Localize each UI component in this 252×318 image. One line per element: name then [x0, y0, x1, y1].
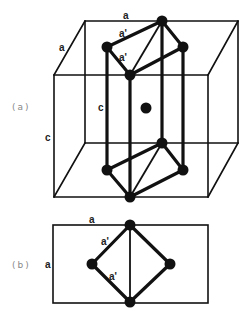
- atom-bottom-front: [125, 192, 136, 203]
- label-c-outer: c: [45, 132, 51, 143]
- label-b-a-top: a: [89, 214, 95, 225]
- panel-b: a a a' a' (b): [12, 214, 208, 308]
- atom-top-right: [178, 42, 189, 53]
- label-a-side: a: [59, 42, 65, 53]
- atom-bottom-right: [178, 165, 189, 176]
- label-a-prime-lower: a': [119, 52, 127, 63]
- atom-top-back: [157, 16, 168, 27]
- label-c-inner: c: [98, 102, 104, 113]
- panel-a-label: (a): [12, 102, 31, 112]
- crystal-lattice-figure: a a a' a' c c (a) a a a' a' (b): [0, 0, 252, 318]
- label-b-a-prime-lower: a': [109, 271, 117, 282]
- atom-top-left: [102, 42, 113, 53]
- atom-b-right: [165, 259, 176, 270]
- atom-body-center: [141, 103, 152, 114]
- label-a-prime-upper: a': [119, 28, 127, 39]
- box-bottom-right-depth-edge: [208, 143, 238, 197]
- atom-bottom-left: [102, 165, 113, 176]
- atoms-b: [87, 220, 176, 308]
- box-bottom-left-depth-edge: [54, 143, 85, 197]
- box-top-right-depth-edge: [208, 21, 238, 75]
- atom-b-top: [125, 220, 136, 231]
- panel-a: a a a' a' c c (a): [12, 10, 238, 203]
- label-b-a-side: a: [45, 259, 51, 270]
- panel-b-label: (b): [12, 260, 31, 270]
- label-a-top: a: [123, 10, 129, 21]
- label-b-a-prime-upper: a': [101, 236, 109, 247]
- atom-bottom-back: [157, 138, 168, 149]
- atom-top-front: [125, 70, 136, 81]
- atom-b-left: [87, 259, 98, 270]
- atom-b-bottom: [125, 297, 136, 308]
